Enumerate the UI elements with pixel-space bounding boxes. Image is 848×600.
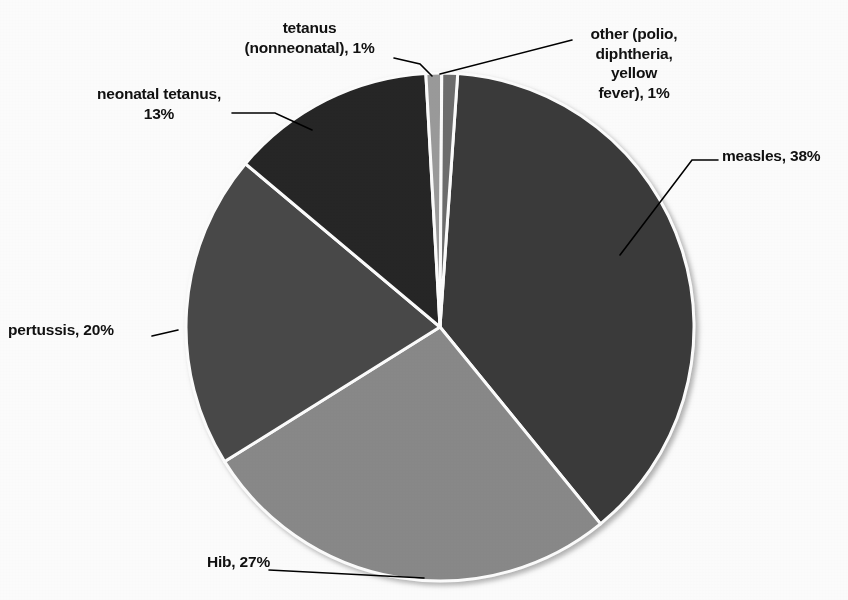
pie-slices-group bbox=[186, 73, 694, 581]
leader-line-pertussis bbox=[152, 330, 178, 336]
pie-chart: measles, 38% Hib, 27% pertussis, 20% neo… bbox=[0, 0, 848, 600]
slice-label-tetanus-nonneonatal[interactable]: tetanus (nonneonatal), 1% bbox=[222, 18, 397, 57]
slice-label-hib[interactable]: Hib, 27% bbox=[150, 552, 270, 572]
slice-label-neonatal-tetanus[interactable]: neonatal tetanus, 13% bbox=[84, 84, 234, 123]
leader-line-other bbox=[440, 40, 572, 74]
slice-label-pertussis[interactable]: pertussis, 20% bbox=[8, 320, 148, 340]
slice-label-measles[interactable]: measles, 38% bbox=[722, 146, 820, 166]
slice-label-other[interactable]: other (polio, diphtheria, yellow fever),… bbox=[574, 24, 694, 102]
